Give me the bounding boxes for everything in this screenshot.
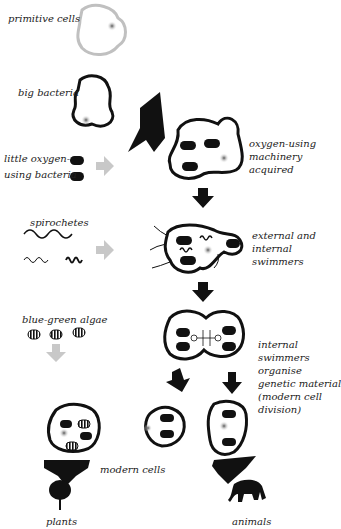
oxygen-cell xyxy=(169,118,242,178)
elephant-icon xyxy=(228,480,266,502)
algae xyxy=(28,328,85,339)
label-swimmers-2: internal xyxy=(252,242,292,255)
big-bacteria-cell xyxy=(73,76,113,126)
label-oxygen-1: oxygen-using xyxy=(249,137,316,150)
middle-cell xyxy=(144,407,184,446)
label-plants: plants xyxy=(46,515,77,528)
label-organise-6: division) xyxy=(258,403,301,416)
tree-icon xyxy=(49,480,71,510)
swimmers-cell xyxy=(150,225,242,272)
label-primitive-cells: primitive cells xyxy=(8,12,80,25)
label-oxygen-2: machinery xyxy=(249,150,302,163)
label-modern-cells: modern cells xyxy=(100,463,165,476)
label-oxygen-3: acquired xyxy=(249,163,294,176)
label-organise-4: genetic material xyxy=(258,377,341,390)
label-animals: animals xyxy=(232,515,271,528)
label-big-bacteria: big bacteria xyxy=(18,86,79,99)
big-arrow-icon xyxy=(128,92,165,152)
little-bacterium xyxy=(70,156,84,165)
grey-down-arrow-icon xyxy=(46,344,66,362)
spirochetes xyxy=(24,230,82,263)
label-organise-3: organise xyxy=(258,364,302,377)
label-organise-1: internal xyxy=(258,338,298,351)
label-swimmers-3: swimmers xyxy=(252,255,304,268)
label-little-bacteria-2: using bacteria xyxy=(4,168,66,181)
down-arrow-icon xyxy=(166,368,190,392)
label-algae: blue-green algae xyxy=(22,313,107,326)
label-organise-2: swimmers xyxy=(258,351,310,364)
plant-cell xyxy=(48,404,99,451)
label-little-bacteria-1: little oxygen- xyxy=(4,152,66,165)
animal-cell xyxy=(208,401,246,454)
down-arrow-icon xyxy=(192,282,214,302)
label-organise-5: (modern cell xyxy=(258,390,322,403)
grey-arrow-icon xyxy=(96,240,114,260)
label-spirochetes: spirochetes xyxy=(30,216,89,229)
primitive-cell xyxy=(78,5,126,54)
label-swimmers-1: external and xyxy=(252,229,316,242)
grey-arrow-icon xyxy=(96,156,114,176)
down-arrow-icon xyxy=(192,188,214,208)
big-arrow-icon xyxy=(44,460,90,486)
organising-cell xyxy=(165,311,244,359)
down-arrow-icon xyxy=(222,372,242,394)
